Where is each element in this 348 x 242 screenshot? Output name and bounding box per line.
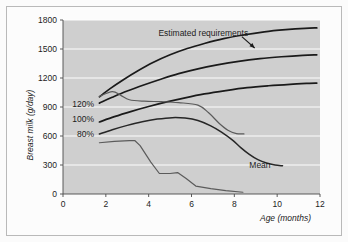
figure-container: 0300600900120015001800 024681012 120%100… bbox=[0, 0, 348, 242]
series-label-80pct: 80% bbox=[77, 129, 94, 139]
annotation-estimated-requirements: Estimated requirements bbox=[158, 28, 248, 38]
y-tick-label-300: 300 bbox=[43, 160, 57, 170]
y-tick-label-1200: 1200 bbox=[38, 73, 57, 83]
x-tick-label-4: 4 bbox=[146, 199, 151, 209]
y-axis-tick-labels: 0300600900120015001800 bbox=[38, 15, 57, 199]
x-tick-label-8: 8 bbox=[232, 199, 237, 209]
x-tick-label-0: 0 bbox=[61, 199, 66, 209]
y-tick-label-600: 600 bbox=[43, 131, 57, 141]
y-tick-label-1500: 1500 bbox=[38, 44, 57, 54]
x-tick-label-6: 6 bbox=[189, 199, 194, 209]
x-tick-label-12: 12 bbox=[315, 199, 325, 209]
annotation-mean: Mean bbox=[249, 160, 271, 170]
x-tick-label-10: 10 bbox=[272, 199, 282, 209]
series-label-120pct: 120% bbox=[72, 99, 94, 109]
x-axis-tick-labels: 024681012 bbox=[61, 199, 325, 209]
y-tick-label-0: 0 bbox=[52, 189, 57, 199]
y-axis-title: Breast milk (g/day) bbox=[25, 89, 35, 160]
series-label-100pct: 100% bbox=[72, 114, 94, 124]
y-tick-label-1800: 1800 bbox=[38, 15, 57, 25]
x-axis-title: Age (months) bbox=[259, 213, 311, 223]
y-tick-label-900: 900 bbox=[43, 102, 57, 112]
x-tick-label-2: 2 bbox=[103, 199, 108, 209]
breast-milk-vs-age-chart: 0300600900120015001800 024681012 120%100… bbox=[0, 0, 348, 242]
